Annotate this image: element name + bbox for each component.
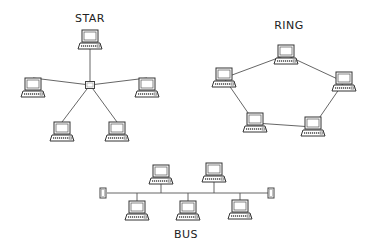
star-link (33, 78, 90, 85)
star-link (62, 85, 90, 122)
computer-icon (274, 45, 298, 64)
network-topologies-diagram (0, 0, 375, 252)
computer-icon (21, 78, 45, 97)
computer-icon (243, 113, 267, 132)
star-topology (21, 30, 159, 141)
star-link (90, 85, 117, 122)
computer-icon (50, 122, 74, 141)
computer-icon (228, 200, 252, 219)
bus-title: BUS (174, 228, 198, 241)
computer-icon (135, 78, 159, 97)
ring-topology (212, 45, 356, 136)
computer-icon (78, 30, 102, 49)
bus-topology (100, 163, 274, 220)
computer-icon (332, 72, 356, 91)
computer-icon (125, 201, 149, 220)
computer-icon (176, 201, 200, 220)
ring-title: RING (274, 19, 304, 32)
computer-icon (212, 68, 236, 87)
computer-icon (149, 165, 173, 184)
star-title: STAR (75, 12, 105, 25)
computer-icon (105, 122, 129, 141)
computer-icon (202, 163, 226, 182)
star-link (90, 78, 147, 85)
computer-icon (301, 117, 325, 136)
